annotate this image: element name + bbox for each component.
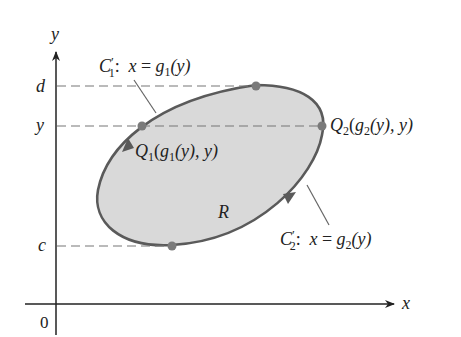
c1-leader-line [134, 80, 156, 113]
q1-name: Q [135, 141, 148, 161]
q2-name: Q [330, 115, 343, 135]
c2-eq-arg: (y) [352, 229, 372, 250]
c1-eq-arg: (y) [171, 56, 191, 77]
y-axis-label: y [49, 24, 59, 44]
c1-eq-var: x [127, 56, 136, 76]
c1-label: C′1: x = g1(y) [99, 54, 191, 80]
q1-label: Q1(g1(y), y) [135, 141, 218, 164]
tick-label-c: c [38, 235, 46, 255]
c2-leader-line [307, 185, 329, 225]
region-boundary [97, 85, 323, 245]
c2-eq-func: g [337, 229, 346, 249]
diagram-canvas: y x 0 d y c R C′1: x = g1(y) Q1(g1(y), y… [0, 0, 461, 337]
point-top-d [252, 82, 261, 91]
region-r [97, 85, 323, 245]
c1-colon: : [115, 56, 125, 76]
point-q1 [138, 122, 147, 131]
tick-label-y: y [34, 115, 44, 135]
c2-eq-sign: = [317, 229, 336, 249]
q2-rest: (y), y) [370, 115, 413, 136]
c1-eq-sign: = [136, 56, 155, 76]
q1-func: g [160, 141, 169, 161]
q2-func: g [355, 115, 364, 135]
c1-eq-func: g [156, 56, 165, 76]
q1-rest: (y), y) [175, 141, 218, 162]
point-q2 [318, 122, 327, 131]
c2-eq-var: x [308, 229, 317, 249]
tick-label-d: d [36, 76, 46, 96]
c2-colon: : [296, 229, 306, 249]
origin-label: 0 [40, 313, 49, 332]
q2-label: Q2(g2(y), y) [330, 115, 413, 138]
region-label: R [217, 202, 229, 222]
c2-label: C′2: x = g2(y) [280, 227, 372, 253]
point-bottom-c [168, 242, 177, 251]
x-axis-label: x [401, 293, 410, 313]
